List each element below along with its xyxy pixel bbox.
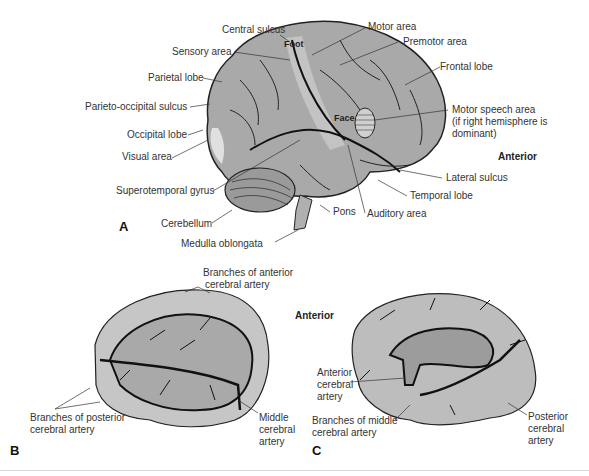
label-posterior-cerebral-3: artery	[528, 435, 554, 447]
label-anterior-cerebral-3: artery	[317, 391, 343, 403]
label-parieto-occipital-sulcus: Parieto-occipital sulcus	[85, 101, 187, 113]
label-posterior-cerebral-2: cerebral	[528, 423, 564, 435]
label-anterior-cerebral: Anterior	[317, 367, 352, 379]
label-posterior-branches: Branches of posterior	[30, 412, 125, 424]
panel-letter-b: B	[10, 443, 19, 458]
label-foot: Foot	[284, 38, 304, 50]
label-anterior-branches-2: cerebral artery	[205, 279, 269, 291]
label-medulla-oblongata: Medulla oblongata	[181, 238, 263, 250]
label-auditory-area: Auditory area	[367, 208, 426, 220]
label-parietal-lobe: Parietal lobe	[148, 72, 204, 84]
label-middle-cerebral: Middle	[259, 412, 288, 424]
label-anterior-a: Anterior	[498, 151, 537, 163]
panel-letter-c: C	[312, 443, 321, 458]
label-cerebellum: Cerebellum	[161, 218, 212, 230]
label-pons: Pons	[333, 206, 356, 218]
label-motor-speech-note-2: dominant)	[452, 128, 496, 140]
label-occipital-lobe: Occipital lobe	[127, 129, 187, 141]
label-motor-speech-area: Motor speech area	[452, 104, 535, 116]
label-central-sulcus: Central sulcus	[222, 24, 285, 36]
label-motor-area: Motor area	[368, 21, 416, 33]
label-temporal-lobe: Temporal lobe	[410, 190, 473, 202]
brain-medial-vessels-c	[350, 294, 536, 425]
label-middle-branches: Branches of middle	[312, 415, 398, 427]
label-visual-area: Visual area	[122, 151, 172, 163]
label-anterior-b: Anterior	[295, 310, 334, 322]
panel-letter-a: A	[119, 219, 128, 234]
label-middle-branches-2: cerebral artery	[312, 427, 376, 439]
label-sensory-area: Sensory area	[172, 46, 231, 58]
label-posterior-cerebral: Posterior	[528, 411, 568, 423]
bottom-divider	[0, 470, 589, 471]
label-premotor-area: Premotor area	[403, 36, 467, 48]
brain-medial-vessels-b	[55, 287, 269, 427]
label-motor-speech-note: (if right hemisphere is	[452, 116, 548, 128]
label-frontal-lobe: Frontal lobe	[440, 61, 493, 73]
label-middle-cerebral-2: cerebral	[259, 424, 295, 436]
label-anterior-cerebral-2: cerebral	[317, 379, 353, 391]
label-anterior-branches: Branches of anterior	[203, 267, 293, 279]
label-posterior-branches-2: cerebral artery	[30, 424, 94, 436]
label-middle-cerebral-3: artery	[259, 436, 285, 448]
label-lateral-sulcus: Lateral sulcus	[446, 172, 508, 184]
label-face: Face	[334, 112, 355, 124]
brain-diagram-art	[0, 0, 589, 476]
label-superotemporal-gyrus: Superotemporal gyrus	[116, 185, 214, 197]
